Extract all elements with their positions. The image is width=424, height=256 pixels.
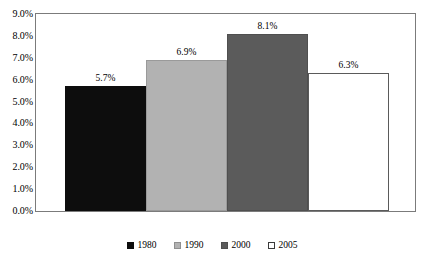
- y-tick-label-3: 3.0%: [0, 140, 33, 150]
- bar-value-1980: 5.7%: [65, 73, 146, 83]
- y-tick-label-7: 7.0%: [0, 53, 33, 63]
- bar-value-1990: 6.9%: [146, 47, 227, 57]
- bar-chart: 9.0% 8.0% 7.0% 6.0% 5.0% 4.0% 3.0% 2.0% …: [0, 0, 424, 256]
- y-tick-label-8: 8.0%: [0, 31, 33, 41]
- y-tick-label-5: 5.0%: [0, 97, 33, 107]
- legend-label-2005: 2005: [279, 240, 298, 250]
- legend-item-2005: 2005: [268, 240, 298, 250]
- legend-item-1990: 1990: [174, 240, 204, 250]
- legend-item-1980: 1980: [127, 240, 157, 250]
- legend-label-1990: 1990: [185, 240, 204, 250]
- bar-value-2000: 8.1%: [227, 21, 308, 31]
- bar-1980: [65, 86, 146, 211]
- legend-label-1980: 1980: [138, 240, 157, 250]
- y-axis: 9.0% 8.0% 7.0% 6.0% 5.0% 4.0% 3.0% 2.0% …: [0, 0, 33, 256]
- y-tick-label-1: 1.0%: [0, 184, 33, 194]
- plot-area: 5.7% 6.9% 8.1% 6.3%: [35, 13, 416, 212]
- y-tick-label-0: 0.0%: [0, 206, 33, 216]
- legend-swatch-icon-2000: [221, 242, 228, 249]
- y-tick-label-9: 9.0%: [0, 9, 33, 19]
- y-tick-label-2: 2.0%: [0, 162, 33, 172]
- legend-item-2000: 2000: [221, 240, 251, 250]
- legend-swatch-icon-1990: [174, 242, 181, 249]
- plot-inner: 5.7% 6.9% 8.1% 6.3%: [36, 14, 415, 211]
- bar-2000: [227, 34, 308, 211]
- legend-label-2000: 2000: [232, 240, 251, 250]
- bar-2005: [308, 73, 389, 211]
- y-tick-label-6: 6.0%: [0, 75, 33, 85]
- bar-value-2005: 6.3%: [308, 60, 389, 70]
- bar-1990: [146, 60, 227, 211]
- legend-swatch-icon-2005: [268, 242, 275, 249]
- legend-swatch-icon-1980: [127, 242, 134, 249]
- chart-legend: 1980 1990 2000 2005: [0, 238, 424, 252]
- y-tick-label-4: 4.0%: [0, 118, 33, 128]
